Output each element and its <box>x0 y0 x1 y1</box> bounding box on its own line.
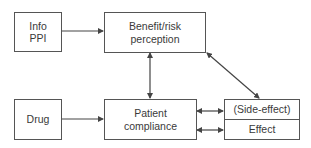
node-drug: Drug <box>14 99 62 140</box>
node-benefit-line2: perception <box>130 33 179 46</box>
node-patient-compliance: Patient compliance <box>104 99 197 140</box>
node-benefit-line1: Benefit/risk <box>129 20 181 33</box>
node-drug-label: Drug <box>27 113 50 126</box>
node-side-effect: (Side-effect) <box>225 100 299 120</box>
node-benefit-risk: Benefit/risk perception <box>104 12 206 53</box>
node-info-ppi: Info PPI <box>14 12 62 52</box>
node-info-line2: PPI <box>30 32 47 45</box>
node-patient-line1: Patient <box>134 107 167 120</box>
node-info-line1: Info <box>29 20 47 33</box>
node-effect: Effect <box>225 120 299 140</box>
node-outcome: (Side-effect) Effect <box>224 99 300 140</box>
edge-benefit-outcome <box>207 53 259 98</box>
node-patient-line2: compliance <box>124 120 177 133</box>
